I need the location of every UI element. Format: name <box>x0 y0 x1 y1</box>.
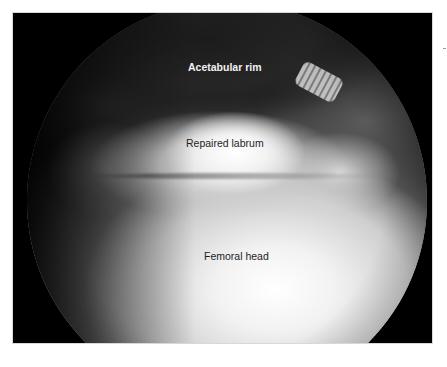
margin-mark <box>443 48 446 49</box>
label-acetabular-rim: Acetabular rim <box>188 61 262 73</box>
label-femoral-head: Femoral head <box>204 250 269 262</box>
label-repaired-labrum: Repaired labrum <box>186 137 264 149</box>
